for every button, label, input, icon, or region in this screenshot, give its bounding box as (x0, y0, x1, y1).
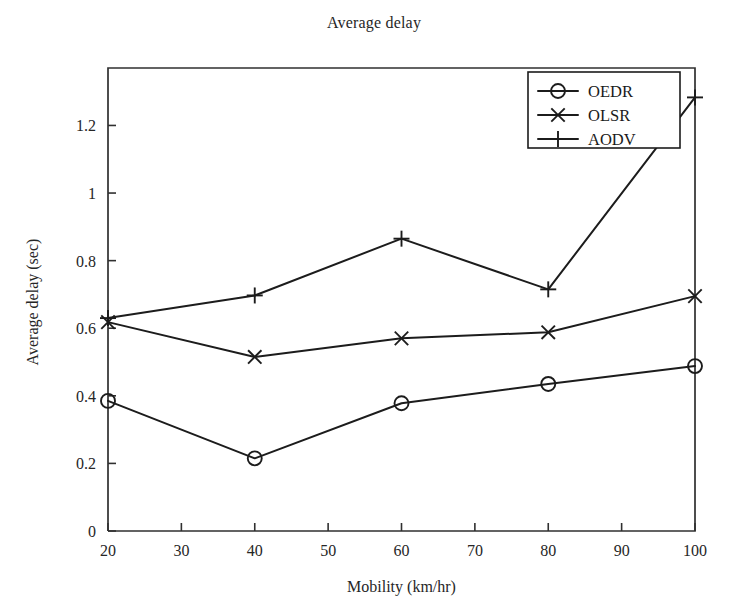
x-tick-label: 70 (467, 542, 483, 559)
y-axis-ticks: 00.20.40.60.811.2 (76, 117, 116, 540)
chart-figure: Average delay Average delay (sec) Mobili… (0, 0, 748, 614)
x-tick-label: 20 (100, 542, 116, 559)
y-tick-label: 1.2 (76, 117, 96, 134)
plot-area: 2030405060708090100 00.20.40.60.811.2 OE… (0, 0, 748, 614)
legend-label: OLSR (588, 106, 630, 125)
series-olsr (101, 289, 701, 363)
data-point-aodv (247, 287, 263, 303)
data-point-aodv (687, 89, 703, 105)
x-tick-label: 40 (247, 542, 263, 559)
data-point-aodv (394, 231, 410, 247)
x-tick-label: 100 (683, 542, 707, 559)
chart-legend: OEDROLSRAODV (528, 72, 680, 149)
series-oedr (101, 359, 702, 465)
x-tick-label: 90 (614, 542, 630, 559)
y-tick-label: 0.2 (76, 455, 96, 472)
y-tick-label: 0 (88, 523, 96, 540)
x-tick-label: 60 (394, 542, 410, 559)
legend-label: AODV (588, 130, 636, 149)
x-tick-label: 50 (320, 542, 336, 559)
data-point-aodv (540, 281, 556, 297)
y-tick-label: 0.4 (76, 388, 96, 405)
legend-label: OEDR (588, 82, 633, 101)
x-tick-label: 30 (173, 542, 189, 559)
series-line-oedr (108, 366, 695, 458)
y-tick-label: 0.8 (76, 253, 96, 270)
y-tick-label: 1 (88, 185, 96, 202)
x-tick-label: 80 (540, 542, 556, 559)
y-tick-label: 0.6 (76, 320, 96, 337)
x-axis-ticks: 2030405060708090100 (100, 523, 707, 559)
